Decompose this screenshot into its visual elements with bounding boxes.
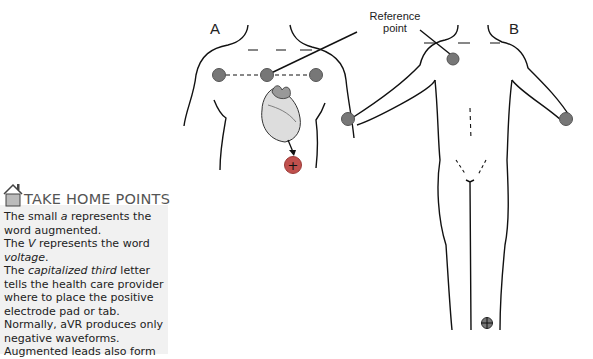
take-home-points: The small a represents the word augmente… xyxy=(4,210,174,359)
take-home-header: TAKE HOME POINTS xyxy=(2,182,182,208)
electrode-right-shoulder-a xyxy=(213,69,226,82)
panel-a-label: A xyxy=(210,20,220,37)
electrode-reference-a xyxy=(261,69,274,82)
electrode-left-arm-b xyxy=(560,113,573,126)
point-2: The V represents the word voltage. xyxy=(4,237,174,264)
point-5: Augmented leads also form xyxy=(4,345,174,359)
take-home-title: TAKE HOME POINTS xyxy=(24,191,170,207)
panel-b-label: B xyxy=(509,20,519,37)
svg-text:+: + xyxy=(288,158,299,173)
electrode-reference-b xyxy=(447,53,459,65)
callout-line-2: point xyxy=(362,22,428,34)
electrode-right-arm-b xyxy=(342,113,355,126)
reference-point-callout: Reference point xyxy=(362,10,428,34)
point-4: Normally, aVR produces only negative wav… xyxy=(4,318,174,345)
house-icon xyxy=(2,182,24,208)
electrode-left-shoulder-a xyxy=(310,69,323,82)
point-1: The small a represents the word augmente… xyxy=(4,210,174,237)
point-3: The capitalized third letter tells the h… xyxy=(4,264,174,318)
callout-line-1: Reference xyxy=(362,10,428,22)
heart-icon xyxy=(262,86,301,142)
body-b-outline xyxy=(352,25,572,330)
